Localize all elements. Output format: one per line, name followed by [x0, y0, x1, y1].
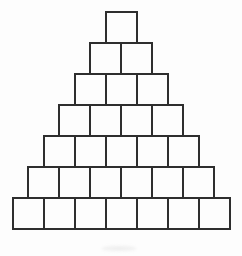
square-cell: [89, 42, 122, 75]
faint-smudge: [102, 246, 136, 251]
pyramid-row: [89, 42, 153, 75]
square-cell: [167, 197, 200, 230]
square-cell: [105, 11, 138, 44]
square-cell: [105, 197, 138, 230]
square-cell: [12, 197, 45, 230]
pyramid-row: [74, 73, 169, 106]
square-cell: [58, 166, 91, 199]
square-cell: [27, 166, 60, 199]
square-cell: [89, 166, 122, 199]
pyramid-row: [27, 166, 215, 199]
square-cell: [74, 135, 107, 168]
square-cell: [43, 135, 76, 168]
square-cell: [120, 166, 153, 199]
square-cell: [105, 135, 138, 168]
square-cell: [136, 73, 169, 106]
square-cell: [58, 104, 91, 137]
square-cell: [105, 73, 138, 106]
square-cell: [136, 135, 169, 168]
square-cell: [74, 73, 107, 106]
pyramid-row: [58, 104, 184, 137]
square-cell: [74, 197, 107, 230]
square-cell: [167, 135, 200, 168]
square-cell: [198, 197, 231, 230]
square-cell: [120, 104, 153, 137]
pyramid-row: [105, 11, 138, 44]
square-cell: [120, 42, 153, 75]
squares-pyramid: [0, 11, 242, 230]
square-cell: [43, 197, 76, 230]
square-cell: [182, 166, 215, 199]
square-cell: [151, 104, 184, 137]
figure-canvas: [0, 0, 242, 256]
square-cell: [151, 166, 184, 199]
pyramid-row: [12, 197, 231, 230]
pyramid-row: [43, 135, 200, 168]
square-cell: [89, 104, 122, 137]
square-cell: [136, 197, 169, 230]
